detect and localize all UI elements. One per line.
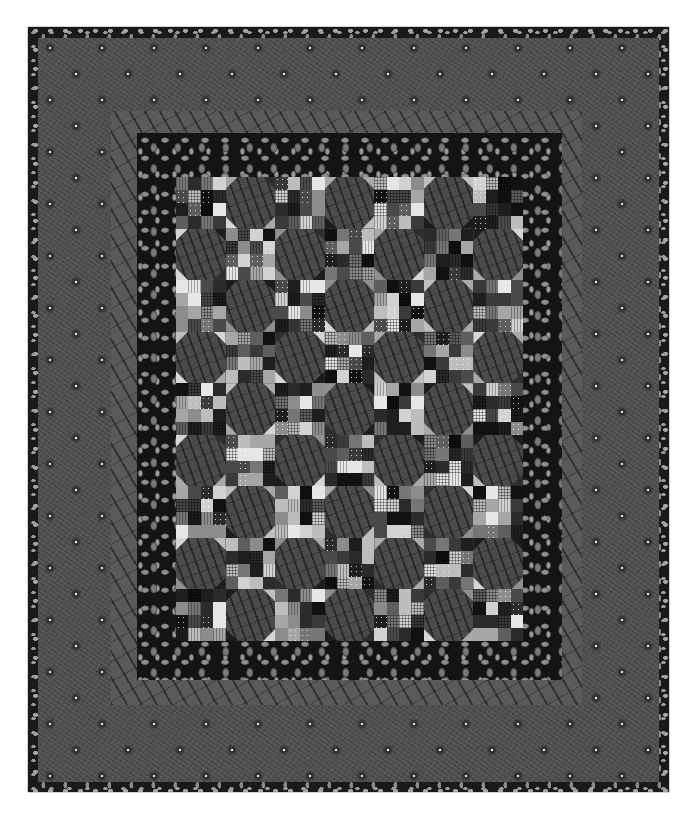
fabric-square [461,551,473,564]
fabric-square [511,216,523,229]
fabric-square [176,216,188,229]
fabric-square [411,383,423,396]
snowball-block [325,589,375,641]
fabric-square [399,499,411,512]
corner-triangle [325,526,337,538]
corner-triangle [226,320,238,332]
fabric-square [238,461,250,474]
fabric-square [387,383,399,396]
fabric-square [201,499,213,512]
fabric-square [226,229,238,242]
fabric-square [436,435,448,448]
fabric-square [288,203,300,216]
fabric-square [226,473,238,486]
fabric-square [201,409,213,422]
snowball-block [374,229,424,281]
fabric-square [461,241,473,254]
corner-triangle [424,526,436,538]
fabric-square [188,396,200,409]
fabric-square [387,602,399,615]
fabric-square [349,448,361,461]
fabric-square [387,486,399,499]
fabric-square [275,525,287,538]
fabric-square [399,589,411,602]
fabric-square [226,435,238,448]
fabric-square [399,422,411,435]
fabric-square [498,396,510,409]
corner-triangle [511,371,523,383]
fabric-square [238,473,250,486]
fabric-square [250,241,262,254]
corner-triangle [412,229,424,241]
corner-triangle [214,577,226,589]
fabric-square [511,203,523,216]
fabric-square [201,190,213,203]
corner-triangle [461,526,473,538]
fabric-square [325,357,337,370]
fabric-square [374,177,386,190]
fabric-square [213,216,225,229]
fabric-square [498,422,510,435]
fabric-square [275,190,287,203]
fabric-square [436,241,448,254]
fabric-square [449,564,461,577]
fabric-square [486,306,498,319]
fabric-square [362,577,374,590]
fabric-square [399,216,411,229]
fabric-square [288,280,300,293]
corner-triangle [325,629,337,641]
fabric-square [325,564,337,577]
fabric-square [349,577,361,590]
patch-block [424,332,474,384]
fabric-square [498,319,510,332]
corner-triangle [473,577,485,589]
fabric-square [362,538,374,551]
fabric-square [188,512,200,525]
fabric-square [411,512,423,525]
fabric-square [387,177,399,190]
fabric-square [300,306,312,319]
fabric-square [201,177,213,190]
fabric-square [424,229,436,242]
fabric-square [362,473,374,486]
fabric-square [213,280,225,293]
fabric-square [213,589,225,602]
fabric-square [411,499,423,512]
fabric-square [250,551,262,564]
corner-triangle [263,486,275,498]
fabric-square [288,499,300,512]
fabric-square [238,538,250,551]
fabric-square [411,486,423,499]
fabric-square [226,241,238,254]
fabric-square [473,602,485,615]
fabric-square [473,216,485,229]
fabric-square [188,203,200,216]
snowball-block [424,280,474,332]
fabric-square [436,357,448,370]
corner-triangle [263,217,275,229]
snowball-block [226,383,276,435]
patch-block [226,435,276,487]
snowball-block [473,538,523,590]
fabric-square [498,383,510,396]
fabric-square [176,499,188,512]
fabric-square [411,615,423,628]
fabric-square [511,409,523,422]
fabric-square [498,280,510,293]
fabric-square [411,409,423,422]
fabric-square [349,357,361,370]
fabric-square [473,319,485,332]
fabric-square [226,370,238,383]
corner-triangle [263,320,275,332]
fabric-square [176,177,188,190]
corner-triangle [275,474,287,486]
corner-triangle [461,486,473,498]
fabric-square [213,512,225,525]
fabric-square [424,370,436,383]
corner-triangle [313,268,325,280]
fabric-square [288,602,300,615]
corner-triangle [374,577,386,589]
fabric-square [362,332,374,345]
corner-triangle [424,177,436,189]
corner-triangle [461,383,473,395]
